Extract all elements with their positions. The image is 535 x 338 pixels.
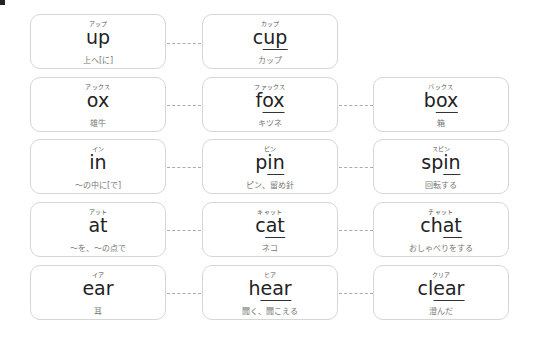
japanese-meaning: ピン、留め針 bbox=[246, 179, 294, 190]
english-word: cat bbox=[255, 214, 285, 236]
japanese-meaning: ネコ bbox=[262, 242, 278, 253]
word-card-spin: スピン spin 回転する bbox=[373, 139, 509, 194]
english-word: up bbox=[86, 26, 110, 48]
dashed-connector bbox=[167, 43, 201, 44]
japanese-meaning: 耳 bbox=[94, 305, 102, 316]
english-word: at bbox=[88, 214, 107, 236]
japanese-meaning: キツネ bbox=[258, 117, 282, 128]
word-card-fox: ファックス fox キツネ bbox=[202, 77, 338, 132]
japanese-meaning: おしゃべりをする bbox=[409, 242, 473, 253]
english-word: hear bbox=[248, 277, 291, 299]
word-card-box: バックス box 箱 bbox=[373, 77, 509, 132]
english-word: fox bbox=[256, 89, 285, 111]
dashed-connector bbox=[167, 105, 201, 106]
dashed-connector bbox=[339, 105, 373, 106]
dashed-connector bbox=[339, 167, 373, 168]
word-card-ear: イア ear 耳 bbox=[30, 265, 166, 320]
japanese-meaning: 雄牛 bbox=[90, 117, 106, 128]
dashed-connector bbox=[167, 167, 201, 168]
english-word: spin bbox=[421, 151, 460, 173]
english-word: box bbox=[424, 89, 458, 111]
word-card-chat: チャット chat おしゃべりをする bbox=[373, 202, 509, 257]
dashed-connector bbox=[167, 230, 201, 231]
dashed-connector bbox=[167, 293, 201, 294]
word-card-cup: カップ cup カップ bbox=[202, 14, 338, 69]
japanese-meaning: ～を、～の点で bbox=[70, 242, 126, 253]
japanese-meaning: 箱 bbox=[437, 117, 445, 128]
dashed-connector bbox=[339, 230, 373, 231]
english-word: in bbox=[89, 151, 106, 173]
english-word: ear bbox=[82, 277, 113, 299]
dashed-connector bbox=[339, 293, 373, 294]
word-card-pin: ピン pin ピン、留め針 bbox=[202, 139, 338, 194]
word-card-in: イン in ～の中に[で] bbox=[30, 139, 166, 194]
english-word: ox bbox=[87, 89, 109, 111]
japanese-meaning: 上へ[に] bbox=[83, 54, 113, 65]
word-card-hear: ヒア hear 聞く、聞こえる bbox=[202, 265, 338, 320]
japanese-meaning: 回転する bbox=[425, 179, 457, 190]
english-word: clear bbox=[418, 277, 465, 299]
japanese-meaning: 聞く、聞こえる bbox=[242, 305, 298, 316]
english-word: chat bbox=[420, 214, 462, 236]
word-card-ox: アックス ox 雄牛 bbox=[30, 77, 166, 132]
japanese-meaning: ～の中に[で] bbox=[75, 179, 121, 190]
word-card-cat: キャット cat ネコ bbox=[202, 202, 338, 257]
word-card-up: アップ up 上へ[に] bbox=[30, 14, 166, 69]
english-word: cup bbox=[253, 26, 288, 48]
word-card-at: アット at ～を、～の点で bbox=[30, 202, 166, 257]
japanese-meaning: カップ bbox=[258, 54, 282, 65]
corner-marker bbox=[0, 0, 5, 5]
japanese-meaning: 澄んだ bbox=[429, 305, 453, 316]
word-card-clear: クリア clear 澄んだ bbox=[373, 265, 509, 320]
english-word: pin bbox=[255, 151, 284, 173]
